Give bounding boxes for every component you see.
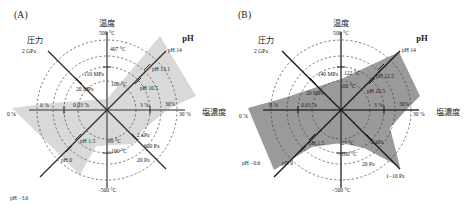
tick-salinity-outer-a: 30 % xyxy=(179,111,191,117)
tick-ph-high-mid-b: pH 12.5 xyxy=(376,73,394,79)
tick-ph-high-inner-b: pH 10.5 xyxy=(367,88,385,94)
tick-salinity-inner-b: 3 % xyxy=(374,102,383,108)
tick-salinity-zero-inner-b: 0 % xyxy=(269,102,278,108)
tick-ph-low-mid-b: pH 1.5 xyxy=(309,140,324,146)
tick-pressure-low-inner-b: 20 Pa xyxy=(362,161,375,167)
tick-salinity-outer-b: 30 % xyxy=(413,111,425,117)
panel-a: 温度 500 °C pH 塩濃度 圧力 2 GPa pH 14 30 % 30%… xyxy=(0,0,235,208)
axis-title-salinity-b: 塩濃度 xyxy=(436,107,460,117)
tick-salinity-outerinner-a: 30% xyxy=(165,101,176,107)
tick-pressure-high-mid-a: 110 MPa xyxy=(84,71,105,77)
axis-title-pressure-b: 圧力 xyxy=(258,35,274,45)
axis-title-salinity-a: 塩濃度 xyxy=(202,107,226,117)
tick-pressure-low-outer-b: 1−10 Pa xyxy=(386,173,405,179)
tick-ph-high-inner-a: pH 10.5 xyxy=(140,85,158,91)
axis-title-pressure-a: 圧力 xyxy=(27,35,43,45)
tick-ph-low-mid-a: pH 1.5 xyxy=(80,138,95,144)
panel-a-plot: 温度 500 °C pH 塩濃度 圧力 2 GPa pH 14 30 % 30%… xyxy=(0,0,235,208)
axis-title-ph-a: pH xyxy=(182,33,194,43)
tick-salinity-zero-inner2-a: 0.03 % xyxy=(73,102,89,108)
tick-salinity-zero-inner-a: 0 % xyxy=(40,102,49,108)
tick-ph-high-outer-a: pH 14 xyxy=(168,47,182,53)
radar-svg-a: 温度 500 °C pH 塩濃度 圧力 2 GPa pH 14 30 % 30%… xyxy=(0,0,235,208)
tick-pressure-high-mid-b: 140 MPa xyxy=(318,71,339,77)
tick-temperature-low-outer-b: −500 °C xyxy=(332,187,351,193)
panel-b: 温度 500 °C pH 塩濃度 圧力 2 GPa pH 14 30 % 30%… xyxy=(234,0,469,208)
series-polygon-b xyxy=(248,52,420,170)
tick-temperature-low-inner-b: −100 °C xyxy=(338,151,357,157)
tick-temperature-outer-a: 500 °C xyxy=(99,30,115,36)
tick-ph-low-outer-b: pH −0.6 xyxy=(242,160,261,166)
tick-salinity-zero-inner2-b: 0.03 % xyxy=(301,102,317,108)
tick-salinity-zero-outer-a: 0 % xyxy=(7,111,16,117)
axis-title-temperature-b: 温度 xyxy=(333,18,349,28)
tick-ph-high-outer-b: pH 14 xyxy=(402,47,416,53)
tick-pressure-low-outer-a: 20 Pa xyxy=(137,157,150,163)
tick-temperature-low-mid-a: 89 °C xyxy=(108,138,121,144)
axis-title-ph-b: pH xyxy=(416,33,428,43)
tick-pressure-low-mid-a: 2 kPa xyxy=(137,132,150,138)
tick-salinity-outerinner-b: 30% xyxy=(399,101,410,107)
tick-ph-low-inner-a: pH 0 xyxy=(61,157,72,163)
panel-a-title: (A) xyxy=(14,10,28,20)
panel-b-plot: 温度 500 °C pH 塩濃度 圧力 2 GPa pH 14 30 % 30%… xyxy=(234,0,469,208)
tick-ph-low-outer-a: pH −3.6 xyxy=(10,195,29,201)
tick-temperature-low-mid-b: −27 °C xyxy=(338,140,354,146)
tick-ph-high-mid-a: pH 13.1 xyxy=(152,66,170,72)
panel-b-title: (B) xyxy=(238,10,251,20)
tick-temperature-mid-b: 122 °C xyxy=(344,70,360,76)
tick-pressure-high-inner-b: 20 MPa xyxy=(306,90,324,96)
tick-temperature-mid-a: 407 °C xyxy=(110,46,126,52)
tick-pressure-high-outer-b: 2 GPa xyxy=(254,48,268,54)
tick-temperature-inner-b: 100 °C xyxy=(340,83,356,89)
axis-title-temperature-a: 温度 xyxy=(99,18,115,28)
tick-pressure-high-inner-a: 20 MPa xyxy=(76,86,94,92)
tick-temperature-low-inner-a: −100 °C xyxy=(108,148,127,154)
radar-svg-b: 温度 500 °C pH 塩濃度 圧力 2 GPa pH 14 30 % 30%… xyxy=(234,0,469,208)
tick-ph-low-inner-b: pH 0 xyxy=(282,160,293,166)
figure-root: 温度 500 °C pH 塩濃度 圧力 2 GPa pH 14 30 % 30%… xyxy=(0,0,469,208)
tick-salinity-inner-a: 3 % xyxy=(140,102,149,108)
tick-pressure-high-outer-a: 2 GPa xyxy=(22,48,36,54)
tick-salinity-zero-outer-b: 0 % xyxy=(239,113,248,119)
tick-pressure-low-inner-a: 600 Pa xyxy=(144,143,160,149)
tick-temperature-inner-a: 100 °C xyxy=(111,81,127,87)
tick-pressure-low-mid-b: 2 kPa xyxy=(371,139,384,145)
tick-temperature-outer-b: 500 °C xyxy=(333,30,349,36)
tick-temperature-low-outer-a: −500 °C xyxy=(98,187,117,193)
